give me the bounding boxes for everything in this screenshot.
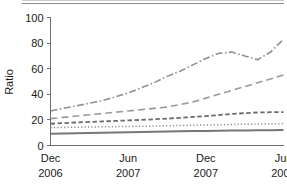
axes-group [47, 18, 284, 146]
y-tick-label: 60 [31, 63, 43, 75]
x-tick-label-year: 2008 [271, 167, 287, 179]
y-tick-label: 0 [37, 140, 43, 152]
y-tick-label: 80 [31, 37, 43, 49]
x-tick-label-year: 2007 [194, 167, 218, 179]
x-tick-label-year: 2007 [116, 167, 140, 179]
y-tick-label: 20 [31, 114, 43, 126]
series-line-5 [51, 130, 284, 134]
y-axis-title: Ratio [3, 69, 15, 95]
x-tick-label-month: Jun [119, 152, 137, 164]
x-tick-label-month: Dec [196, 152, 216, 164]
chart-figure: 020406080100 Dec2006Jun2007Dec2007Jun200… [0, 0, 287, 188]
y-tick-label: 40 [31, 88, 43, 100]
x-tick-label-month: Jun [275, 152, 287, 164]
series-line-3 [51, 112, 284, 124]
series-line-1 [51, 39, 284, 111]
x-tick-label-year: 2006 [38, 167, 62, 179]
y-tick-label: 100 [25, 12, 43, 24]
x-tick-labels: Dec2006Jun2007Dec2007Jun2008 [38, 152, 287, 179]
series-group [51, 39, 284, 133]
y-tick-labels: 020406080100 [25, 12, 43, 152]
x-tick-label-month: Dec [41, 152, 61, 164]
series-line-4 [51, 124, 284, 128]
line-chart: 020406080100 Dec2006Jun2007Dec2007Jun200… [0, 0, 287, 188]
